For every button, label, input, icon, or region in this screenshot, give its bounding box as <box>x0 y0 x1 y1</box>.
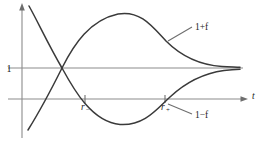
y-axis-group <box>19 3 25 138</box>
unity-level-label: 1 <box>7 63 12 74</box>
label-one-minus-f: 1−f <box>195 110 209 120</box>
tick-label-r-plus: r + <box>161 102 170 113</box>
tick-label-r-plus-base: r <box>161 102 165 112</box>
leader-line-one-plus-f <box>168 27 192 41</box>
tick-label-r-plus-sub: + <box>166 106 170 113</box>
x-axis-group <box>8 96 248 101</box>
x-axis-label-t: t <box>252 91 255 101</box>
tick-label-r-minus-sub: − <box>86 106 90 113</box>
tick-label-r-minus-base: r <box>81 102 85 112</box>
y-axis-arrowhead <box>19 3 25 11</box>
plot-canvas: 1 1+f 1−f t r − r + <box>0 0 265 141</box>
label-one-plus-f: 1+f <box>195 22 209 32</box>
x-axis-arrowhead <box>241 96 249 101</box>
figure-container: 1 1+f 1−f t r − r + <box>0 0 265 141</box>
leader-line-one-minus-f <box>168 104 192 114</box>
